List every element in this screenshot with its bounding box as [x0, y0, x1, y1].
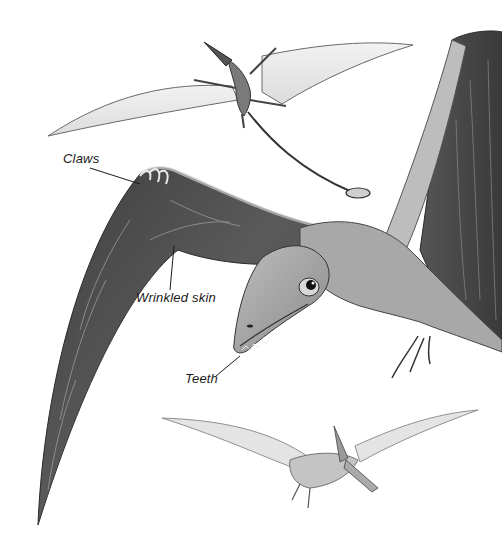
small-long-tailed-pterosaur [48, 42, 413, 198]
claws-label: Claws [63, 151, 99, 166]
teeth-label: Teeth [185, 371, 218, 386]
crested-pterosaur [162, 410, 478, 508]
teeth-pointer-line [216, 356, 240, 376]
pterosaur-illustration [0, 0, 502, 553]
wrinkled-skin-label: Wrinkled skin [136, 290, 216, 305]
claws-pointer-line [90, 168, 140, 184]
